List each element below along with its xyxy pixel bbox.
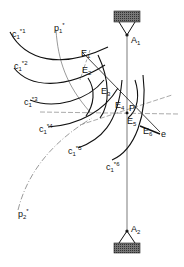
- label-p2: p2*: [18, 208, 29, 220]
- label-p1: p1*: [54, 22, 65, 34]
- label-c1-4: c1*4: [39, 123, 53, 135]
- label-E3: E3: [101, 87, 110, 97]
- label-P: P: [129, 104, 135, 113]
- label-E6: E6: [143, 127, 152, 137]
- label-c1-3: c1*3: [24, 96, 38, 108]
- linkage-diagram: [0, 0, 184, 267]
- label-A2: A2: [131, 225, 140, 235]
- label-c1-1: c1*1: [12, 28, 26, 40]
- label-A1: A1: [131, 36, 140, 46]
- label-c1-5: c1*5: [68, 145, 82, 157]
- curve-p2: [18, 118, 92, 210]
- label-e: e: [161, 130, 166, 139]
- label-c1-6: c1*6: [106, 161, 120, 173]
- label-c1-2: c1*2: [14, 60, 28, 72]
- pole-point: [126, 112, 129, 115]
- label-E4: E4: [115, 101, 124, 111]
- top-fixed-support: [114, 11, 140, 37]
- curve-c1-5: [78, 80, 122, 148]
- line-e: [82, 52, 160, 132]
- label-E2: E2: [82, 66, 91, 76]
- label-E1: E1: [81, 49, 90, 59]
- label-E5: E5: [127, 117, 136, 127]
